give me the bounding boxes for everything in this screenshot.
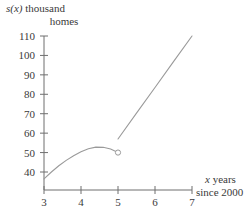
x-tick-label: 5: [110, 196, 126, 208]
open-circle-marker: [115, 150, 120, 155]
y-tick-label: 80: [9, 88, 35, 100]
y-tick-label: 50: [9, 147, 35, 159]
curved-branch-path: [44, 147, 118, 179]
y-tick-label: 60: [9, 127, 35, 139]
y-tick-label: 100: [9, 49, 35, 61]
x-tick-label: 4: [73, 196, 89, 208]
x-tick-label: 6: [147, 196, 163, 208]
y-tick-label: 40: [9, 166, 35, 178]
linear-branch-path: [118, 36, 192, 139]
y-tick-label: 110: [9, 30, 35, 42]
x-tick-label: 3: [36, 196, 52, 208]
graph-figure: s(x) thousand homes x years since 2000 1…: [0, 0, 252, 215]
y-tick-label: 70: [9, 108, 35, 120]
plot-area: [0, 0, 252, 215]
x-tick-label: 7: [184, 196, 200, 208]
y-tick-label: 90: [9, 69, 35, 81]
